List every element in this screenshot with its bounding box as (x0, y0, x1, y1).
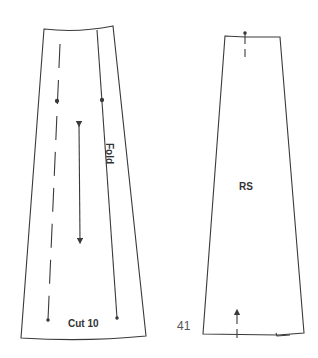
balance-dot-right (100, 98, 103, 101)
stitch-line-dashed (48, 44, 60, 320)
right-side-label: RS (239, 181, 253, 192)
pattern-diagram (0, 0, 318, 358)
end-dot-left (47, 319, 49, 321)
right-pattern-piece (203, 32, 304, 338)
fold-label: Fold (104, 143, 115, 164)
left-pattern-piece (21, 26, 146, 340)
page-number: 41 (177, 319, 190, 333)
fold-line (97, 30, 117, 318)
cut-label: Cut 10 (68, 318, 99, 329)
right-piece-outline (203, 36, 304, 335)
balance-dot-left (55, 99, 58, 102)
end-dot-right (116, 317, 118, 319)
grainline-arrow-icon (79, 124, 80, 241)
left-piece-outline (21, 26, 146, 340)
